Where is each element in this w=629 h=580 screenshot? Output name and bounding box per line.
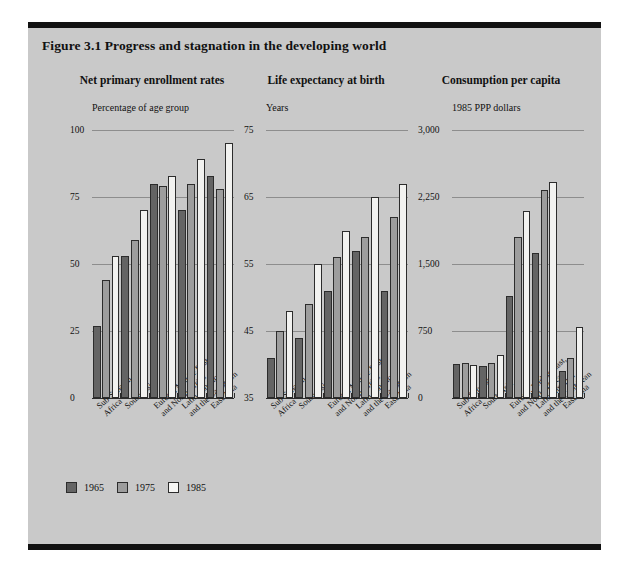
top-rule (28, 22, 601, 28)
bar-group (266, 130, 294, 398)
panel-title: Net primary enrollment rates (68, 74, 236, 86)
bar (532, 253, 539, 398)
bar-group (323, 130, 351, 398)
bar (225, 143, 233, 398)
y-axis-tick-label: 75 (244, 125, 254, 135)
bar (333, 257, 341, 398)
bar (267, 358, 275, 398)
legend-item: 1965 (66, 482, 104, 493)
bar (112, 256, 120, 398)
y-axis-tick-label: 0 (418, 393, 423, 403)
bar (314, 264, 322, 398)
bar (187, 184, 195, 398)
bar-group (92, 130, 120, 398)
y-axis-tick-label: 45 (244, 326, 254, 336)
bar (559, 371, 566, 398)
bar (399, 184, 407, 398)
bar (324, 291, 332, 398)
bars-layer (266, 130, 408, 398)
y-axis-tick-label: 2,250 (418, 192, 439, 202)
bar-group (505, 130, 531, 398)
chart-panel-3: Consumption per capita1985 PPP dollars07… (416, 74, 586, 494)
bar (549, 182, 556, 398)
bar (207, 176, 215, 398)
bar (168, 176, 176, 398)
bar (462, 363, 469, 398)
bar (361, 237, 369, 398)
y-axis-tick-label: 100 (70, 125, 84, 135)
bar (286, 311, 294, 398)
bar (295, 338, 303, 398)
bar (159, 186, 167, 398)
bar-group (206, 130, 234, 398)
x-axis-tick (584, 393, 585, 398)
bar-group (558, 130, 584, 398)
x-axis-tick (234, 393, 235, 398)
plot-area: 0255075100Sub-SaharanAfricaSouth AsiaEur… (92, 130, 234, 398)
y-axis-tick-label: 50 (70, 259, 80, 269)
y-axis-tick-label: 65 (244, 192, 254, 202)
legend-swatch-icon (168, 482, 179, 493)
bar-group (478, 130, 504, 398)
panel-title: Consumption per capita (416, 74, 586, 86)
bar-group (452, 130, 478, 398)
y-axis-tick-label: 55 (244, 259, 254, 269)
bar (497, 355, 504, 398)
legend-label: 1975 (135, 482, 155, 493)
bar-group (531, 130, 557, 398)
chart-panel-2: Life expectancy at birthYears3545556575S… (242, 74, 410, 494)
figure-title: Figure 3.1 Progress and stagnation in th… (42, 38, 386, 54)
y-axis-unit-label: Percentage of age group (92, 102, 189, 113)
bar (453, 364, 460, 398)
y-axis-tick-label: 750 (418, 326, 432, 336)
bar (470, 365, 477, 398)
bar (121, 256, 129, 398)
bar-group (380, 130, 408, 398)
bar (523, 211, 530, 398)
bar (576, 327, 583, 398)
legend-label: 1985 (186, 482, 206, 493)
bar (390, 217, 398, 398)
y-axis-tick-label: 25 (70, 326, 80, 336)
bar (93, 326, 101, 398)
plot-area: 07501,5002,2503,000Sub-SaharanAfricaSout… (452, 130, 584, 398)
bar (276, 331, 284, 398)
bar-group (294, 130, 322, 398)
y-axis-tick-label: 1,500 (418, 259, 439, 269)
legend-label: 1965 (84, 482, 104, 493)
bar-group (120, 130, 148, 398)
bar (352, 251, 360, 398)
bar (216, 189, 224, 398)
y-axis-unit-label: Years (266, 102, 288, 113)
bar (342, 231, 350, 399)
chart-legend: 196519751985 (66, 482, 206, 493)
legend-item: 1975 (117, 482, 155, 493)
bar (506, 296, 513, 398)
y-axis-tick-label: 3,000 (418, 125, 439, 135)
chart-panel-1: Net primary enrollment ratesPercentage o… (68, 74, 236, 494)
bar (150, 184, 158, 398)
bar (381, 291, 389, 398)
bar-group (351, 130, 379, 398)
bar (488, 363, 495, 398)
bar (102, 280, 110, 398)
bar (197, 159, 205, 398)
bar (178, 210, 186, 398)
x-axis-tick (408, 393, 409, 398)
bar (567, 358, 574, 398)
bar (140, 210, 148, 398)
plot-area: 3545556575Sub-SaharanAfricaSouth AsiaEur… (266, 130, 408, 398)
bar (541, 190, 548, 398)
bar (479, 366, 486, 398)
y-axis-unit-label: 1985 PPP dollars (452, 102, 521, 113)
figure-container: Figure 3.1 Progress and stagnation in th… (28, 22, 601, 550)
y-axis-tick-label: 0 (70, 393, 75, 403)
y-axis-tick-label: 75 (70, 192, 80, 202)
panel-title: Life expectancy at birth (242, 74, 410, 86)
bar-group (177, 130, 205, 398)
legend-swatch-icon (66, 482, 77, 493)
legend-item: 1985 (168, 482, 206, 493)
bar-group (149, 130, 177, 398)
bottom-rule (28, 544, 601, 550)
bar (514, 237, 521, 398)
